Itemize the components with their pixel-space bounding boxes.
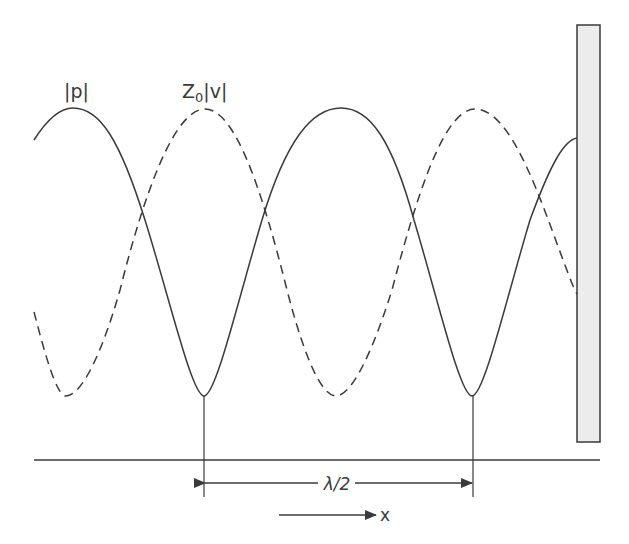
- half-wavelength-label: λ/2: [323, 474, 351, 494]
- velocity-curve: [34, 109, 577, 396]
- rigid-wall: [577, 25, 600, 442]
- velocity-label-subscript: 0: [195, 90, 203, 105]
- velocity-label-prefix: Z: [182, 80, 195, 102]
- velocity-label-suffix: |v|: [203, 80, 227, 103]
- x-axis-label: x: [380, 505, 390, 525]
- diagram-svg: λ/2 x |p| Z0|v|: [0, 0, 629, 544]
- standing-wave-diagram: λ/2 x |p| Z0|v|: [0, 0, 629, 544]
- pressure-label: |p|: [64, 80, 89, 103]
- svg-text:Z0|v|: Z0|v|: [182, 80, 227, 105]
- velocity-label: Z0|v|: [182, 80, 227, 105]
